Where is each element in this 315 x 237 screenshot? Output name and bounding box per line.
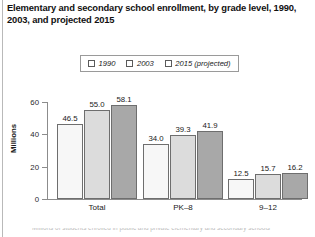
- bar-value-label: 46.5: [54, 114, 86, 123]
- bar-912-1990: [228, 179, 254, 199]
- bar-Total-2015projected: [111, 105, 137, 199]
- bar-value-label: 58.1: [108, 95, 140, 104]
- bar-value-label: 41.9: [194, 121, 226, 130]
- y-tick-label-0: 0: [15, 195, 39, 204]
- enrollment-bar-chart-figure: Elementary and secondary school enrollme…: [0, 0, 315, 237]
- x-axis-baseline: [47, 199, 302, 200]
- y-axis-line: [47, 102, 48, 200]
- cutoff-caption: Millions of students enrolled in public …: [32, 228, 307, 237]
- y-tick-60: [42, 102, 47, 103]
- cutoff-caption-text: Millions of students enrolled in public …: [32, 228, 307, 231]
- bar-PK8-2003: [170, 135, 196, 199]
- bar-Total-1990: [57, 124, 83, 199]
- bar-PK8-1990: [143, 144, 169, 199]
- group-label-912: 9–12: [218, 203, 315, 212]
- bar-912-2015projected: [282, 173, 308, 199]
- bar-912-2003: [255, 174, 281, 199]
- bar-Total-2003: [84, 110, 110, 199]
- y-tick-40: [42, 134, 47, 135]
- bar-PK8-2015projected: [197, 131, 223, 199]
- plot-area: Millions 020406046.555.058.1Total34.039.…: [0, 0, 315, 237]
- y-tick-label-40: 40: [15, 130, 39, 139]
- y-tick-0: [42, 199, 47, 200]
- bar-value-label: 34.0: [140, 134, 172, 143]
- y-tick-label-60: 60: [15, 98, 39, 107]
- y-tick-label-20: 20: [15, 162, 39, 171]
- y-tick-20: [42, 167, 47, 168]
- bar-value-label: 16.2: [279, 163, 311, 172]
- group-label-Total: Total: [47, 203, 147, 212]
